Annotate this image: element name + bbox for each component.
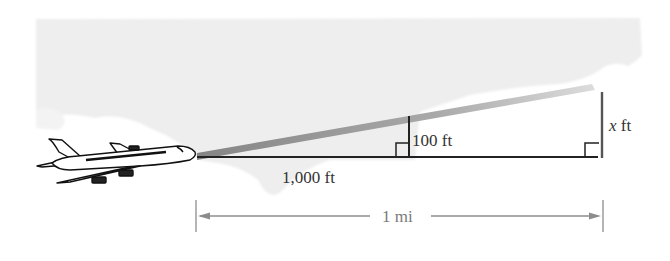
airplane-triangle-diagram: 100 ft 1,000 ft x ft 1 mi [0, 0, 670, 261]
arrowhead-right-icon [589, 213, 601, 220]
total-distance-label: 1 mi [382, 207, 413, 226]
tall-leg-height-label: x ft [608, 116, 631, 135]
right-angle-marker-large [585, 143, 599, 157]
airplane-icon [37, 139, 195, 183]
short-leg-height-label: 100 ft [412, 131, 452, 150]
unit-ft: ft [617, 116, 632, 135]
arrowhead-left-icon [198, 213, 210, 220]
short-leg-base-label: 1,000 ft [282, 168, 335, 187]
